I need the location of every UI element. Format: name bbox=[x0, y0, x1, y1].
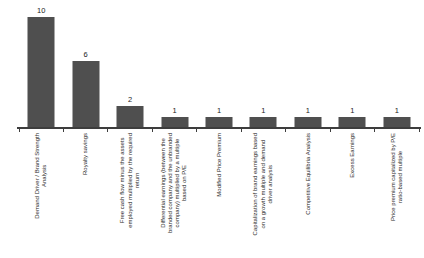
bar-slot: 1 bbox=[197, 0, 241, 128]
x-axis-label: Royalty savings bbox=[82, 133, 89, 175]
x-axis-label-slot: Capitalization of brand earnings based o… bbox=[241, 133, 285, 255]
x-axis-tick bbox=[419, 129, 420, 132]
x-axis-tick bbox=[241, 129, 242, 132]
x-axis-tick bbox=[19, 129, 20, 132]
bar-slot: 1 bbox=[241, 0, 285, 128]
x-axis-label-slot: Royalty savings bbox=[63, 133, 107, 255]
x-axis-label-slot: Modified Price Premium bbox=[197, 133, 241, 255]
x-axis-label: Demand Driver / Brand Strength Analysis bbox=[34, 133, 49, 219]
bar-value-label: 1 bbox=[197, 107, 241, 115]
x-axis-tick bbox=[63, 129, 64, 132]
bar-slot: 6 bbox=[63, 0, 107, 128]
x-axis-label-slot: Differential earnings (between the brand… bbox=[152, 133, 196, 255]
bar-value-label: 1 bbox=[286, 107, 330, 115]
bar-slot: 1 bbox=[286, 0, 330, 128]
x-axis-label: Capitalization of brand earnings based o… bbox=[252, 133, 274, 235]
x-axis-label-slot: Excess Earnings bbox=[330, 133, 374, 255]
bar-value-label: 2 bbox=[108, 96, 152, 104]
bar-slot: 1 bbox=[375, 0, 419, 128]
bar-slot: 1 bbox=[152, 0, 196, 128]
x-axis-label-slot: Competitive Equilibria Analysis bbox=[286, 133, 330, 255]
bar-value-label: 6 bbox=[63, 51, 107, 59]
x-axis-tick bbox=[330, 129, 331, 132]
x-axis-label-slot: Demand Driver / Brand Strength Analysis bbox=[19, 133, 63, 255]
bar-slot: 1 bbox=[330, 0, 374, 128]
x-axis-labels: Demand Driver / Brand Strength Analysis … bbox=[19, 133, 419, 255]
x-axis-label: Free cash flow minus the assets employed… bbox=[119, 133, 141, 228]
bar-slot: 2 bbox=[108, 0, 152, 128]
x-axis-label-slot: Free cash flow minus the assets employed… bbox=[108, 133, 152, 255]
bar bbox=[72, 61, 99, 128]
x-axis-label: Price premium capitalized by P/E ratio-b… bbox=[389, 133, 404, 221]
bar bbox=[28, 17, 55, 128]
x-axis-tick bbox=[152, 129, 153, 132]
bar-value-label: 1 bbox=[330, 107, 374, 115]
bar-slot: 10 bbox=[19, 0, 63, 128]
bar bbox=[117, 106, 144, 128]
bar-value-label: 1 bbox=[241, 107, 285, 115]
bar-value-label: 1 bbox=[375, 107, 419, 115]
x-axis-tick bbox=[374, 129, 375, 132]
x-axis-tick bbox=[196, 129, 197, 132]
x-axis-tick bbox=[107, 129, 108, 132]
bar-value-label: 1 bbox=[152, 107, 196, 115]
x-axis-label: Modified Price Premium bbox=[215, 133, 222, 197]
x-axis-label: Excess Earnings bbox=[349, 133, 356, 178]
x-axis-label: Differential earnings (between the brand… bbox=[160, 133, 189, 233]
plot-area: 10 6 2 1 1 1 1 1 bbox=[19, 0, 419, 128]
x-axis-tick bbox=[285, 129, 286, 132]
bar-chart: 10 6 2 1 1 1 1 1 bbox=[0, 0, 424, 258]
x-axis-label: Competitive Equilibria Analysis bbox=[304, 133, 311, 215]
bar-value-label: 10 bbox=[19, 7, 63, 15]
x-axis-label-slot: Price premium capitalized by P/E ratio-b… bbox=[375, 133, 419, 255]
